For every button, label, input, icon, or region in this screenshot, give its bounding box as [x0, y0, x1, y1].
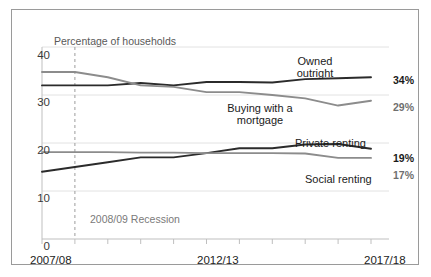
series-label-buying-with-mortgage: Buying with amortgage [214, 103, 306, 126]
series-label-owned-line1: Owned [298, 55, 333, 67]
series-label-mortgage-line2: mortgage [237, 114, 283, 126]
end-value-private-renting: 19% [393, 153, 414, 164]
series-label-mortgage-line1: Buying with a [227, 102, 292, 114]
y-axis-title: Percentage of households [54, 36, 176, 47]
y-tick-label-40: 40 [28, 49, 50, 61]
end-value-buying-with-mortgage: 29% [393, 102, 414, 113]
y-tick-label-0: 0 [28, 240, 50, 252]
y-tick-label-10: 10 [28, 192, 50, 204]
series-lines-group [42, 72, 371, 172]
chart-frame: Percentage of households 40 30 20 10 0 2… [11, 9, 419, 265]
series-label-social-renting: Social renting [305, 174, 397, 186]
end-value-owned-outright: 34% [393, 75, 414, 86]
y-tick-label-20: 20 [28, 144, 50, 156]
x-axis-ticks-group [42, 239, 371, 244]
x-tick-label-start: 2007/08 [30, 254, 72, 266]
chart-figure: Percentage of households 40 30 20 10 0 2… [0, 0, 431, 277]
recession-annotation-label: 2008/09 Recession [90, 214, 180, 225]
series-label-owned-line2: outright [297, 67, 334, 79]
x-tick-label-end: 2017/18 [364, 254, 406, 266]
series-label-private-renting: Private renting [295, 138, 389, 150]
series-label-owned-outright: Ownedoutright [280, 56, 350, 79]
x-tick-label-mid: 2012/13 [197, 254, 239, 266]
y-tick-label-30: 30 [28, 96, 50, 108]
end-value-social-renting: 17% [393, 170, 414, 181]
series-line-social-renting [42, 152, 371, 158]
